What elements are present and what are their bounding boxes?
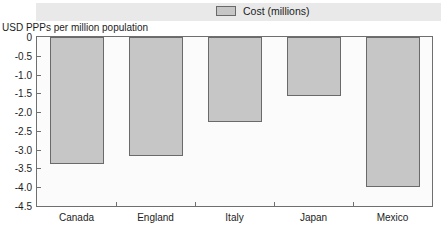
y-tick-mark <box>37 93 41 94</box>
y-tick-label: -4.5 <box>15 201 32 212</box>
x-axis-label-italy: Italy <box>225 212 243 223</box>
y-axis-caption: USD PPPs per million population <box>2 22 148 33</box>
bar-italy <box>208 37 262 122</box>
y-tick-mark <box>37 112 41 113</box>
chart-figure: Cost (millions) USD PPPs per million pop… <box>0 0 441 232</box>
y-tick-mark <box>37 131 41 132</box>
x-tick-mark <box>274 202 275 206</box>
y-tick-label: -0.5 <box>15 50 32 61</box>
legend-label-cost: Cost (millions) <box>243 6 310 17</box>
bar-canada <box>50 37 104 164</box>
x-axis-label-mexico: Mexico <box>377 212 409 223</box>
plot-inner: 0-0.5-1.0-1.5-2.0-2.5-3.0-3.5-4.0-4.5 <box>37 37 432 206</box>
y-tick-label: -3.5 <box>15 163 32 174</box>
y-tick-mark <box>37 150 41 151</box>
y-tick-mark <box>37 75 41 76</box>
y-tick-label: -3.0 <box>15 144 32 155</box>
plot-area: 0-0.5-1.0-1.5-2.0-2.5-3.0-3.5-4.0-4.5 <box>36 36 433 207</box>
y-tick-label: -2.0 <box>15 107 32 118</box>
x-tick-mark <box>353 202 354 206</box>
chart-legend: Cost (millions) <box>216 6 310 17</box>
y-tick-mark <box>37 187 41 188</box>
bars-layer <box>37 37 432 206</box>
x-axis-label-japan: Japan <box>300 212 327 223</box>
bar-japan <box>287 37 341 96</box>
y-tick-mark <box>37 56 41 57</box>
x-tick-mark <box>116 202 117 206</box>
legend-swatch-cost <box>216 6 236 16</box>
x-axis-label-england: England <box>137 212 174 223</box>
y-tick-label: -1.0 <box>15 69 32 80</box>
y-tick-label: -1.5 <box>15 88 32 99</box>
y-tick-label: 0 <box>26 32 32 43</box>
y-tick-label: -2.5 <box>15 125 32 136</box>
x-axis-label-canada: Canada <box>59 212 94 223</box>
bar-england <box>129 37 183 156</box>
bar-mexico <box>366 37 420 187</box>
y-tick-label: -4.0 <box>15 182 32 193</box>
y-tick-mark <box>37 168 41 169</box>
x-tick-mark <box>195 202 196 206</box>
